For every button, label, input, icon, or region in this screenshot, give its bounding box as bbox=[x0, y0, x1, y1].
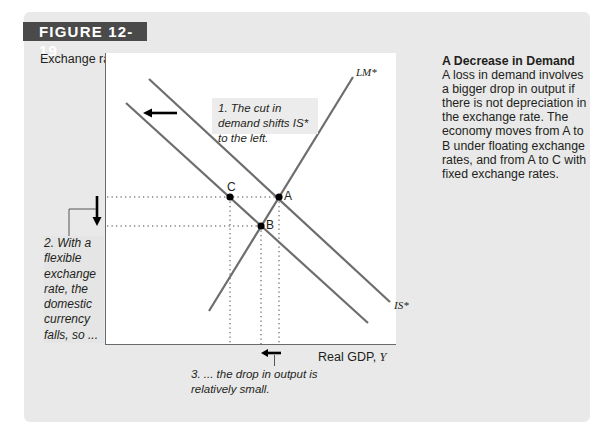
point-c bbox=[226, 193, 233, 200]
x-axis-label-text: Real GDP, bbox=[318, 350, 380, 364]
point-b bbox=[257, 222, 264, 229]
is-label: IS* bbox=[394, 299, 409, 311]
point-a-label: A bbox=[284, 189, 292, 203]
caption-body: A loss in demand involves a bigger drop … bbox=[442, 68, 586, 181]
annotation-1: 1. The cut in demand shifts IS* to the l… bbox=[212, 98, 318, 134]
x-axis-label: Real GDP, Y bbox=[318, 350, 387, 365]
annotation-3: 3. ... the drop in output is relatively … bbox=[191, 367, 321, 397]
annotation-2: 2. With a flexible exchange rate, the do… bbox=[44, 236, 104, 343]
note2-connector bbox=[69, 209, 96, 236]
lm-label: LM* bbox=[356, 66, 377, 78]
caption-title: A Decrease in Demand bbox=[442, 54, 575, 68]
down-arrow-icon bbox=[93, 196, 102, 226]
x-axis-symbol: Y bbox=[380, 350, 387, 364]
figure-caption: A Decrease in Demand A loss in demand in… bbox=[442, 54, 588, 181]
left-shift-arrow-icon bbox=[143, 109, 177, 118]
point-c-label: C bbox=[227, 180, 236, 194]
output-drop-arrow-icon bbox=[261, 349, 281, 357]
point-a bbox=[275, 193, 282, 200]
point-b-label: B bbox=[266, 218, 274, 232]
